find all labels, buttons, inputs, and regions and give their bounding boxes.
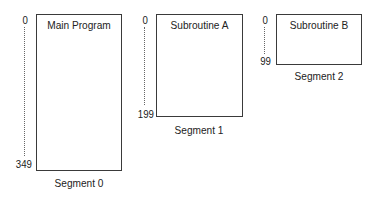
segment-0-start-address: 0 [15, 15, 28, 26]
segment-0-end-address: 349 [12, 159, 32, 170]
segment-1-end-address: 199 [134, 109, 154, 120]
segment-1-start-address: 0 [141, 15, 148, 26]
segment-2-address-range-line [264, 27, 265, 54]
segment-2-end-address: 99 [257, 56, 271, 67]
segment-1-label: Segment 1 [158, 124, 241, 136]
segment-2-title: Subroutine B [280, 19, 357, 31]
segment-0-title: Main Program [40, 19, 117, 31]
segment-2-box: Subroutine B [276, 14, 362, 65]
segment-2-start-address: 0 [261, 15, 268, 26]
segment-0-label: Segment 0 [38, 177, 121, 189]
segment-1-box: Subroutine A [156, 14, 243, 117]
segment-1-title: Subroutine A [160, 19, 238, 31]
segment-1-address-range-line [144, 27, 145, 105]
segment-2-label: Segment 2 [278, 70, 361, 82]
segment-0-box: Main Program [36, 14, 122, 171]
segment-0-address-range-line [24, 27, 25, 156]
